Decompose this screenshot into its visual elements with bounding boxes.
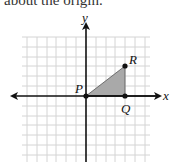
point-q [122,93,127,98]
label-q: Q [121,101,131,116]
axes [12,24,160,162]
point-r [122,63,127,68]
point-p [83,93,88,98]
label-y: y [80,10,88,25]
label-r: R [128,52,137,67]
coordinate-plane: y x P Q R [0,0,172,162]
label-p: P [74,81,83,96]
label-x: x [162,88,169,103]
